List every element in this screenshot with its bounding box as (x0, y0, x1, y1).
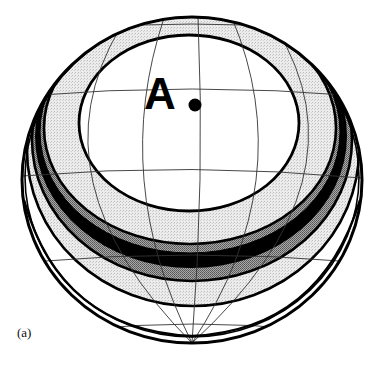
inner-region (79, 35, 299, 211)
panel-label: (a) (17, 325, 31, 341)
point-a-label: A (144, 69, 176, 118)
globe-figure: A (0, 0, 382, 382)
point-a-marker (189, 99, 202, 112)
contour-bands (22, 0, 362, 343)
globe-svg: A (0, 0, 382, 382)
